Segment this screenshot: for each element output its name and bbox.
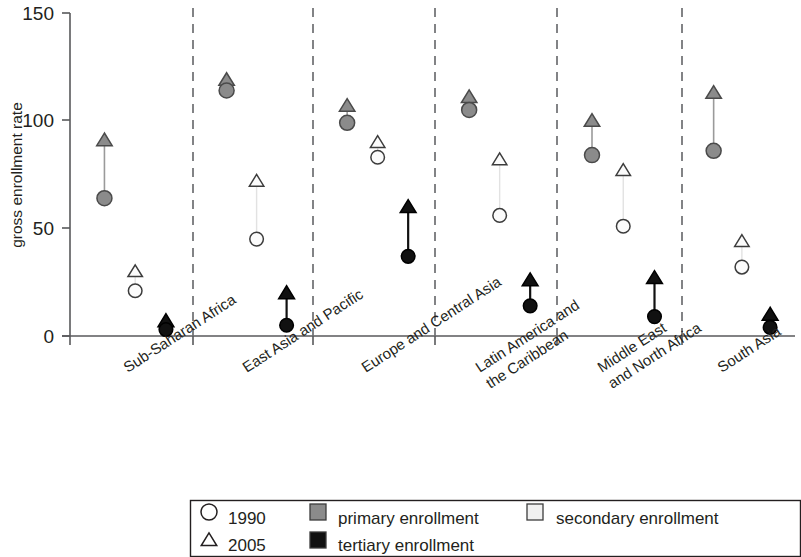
datapoint-tertiary-5 — [647, 271, 663, 324]
marker-1990-secondary-5 — [616, 219, 630, 233]
datapoint-tertiary-2 — [279, 286, 295, 332]
marker-2005-tertiary-2 — [279, 286, 295, 299]
gross-enrollment-rate-chart: 150 100 50 0 gross enrollment rate Sub-S… — [0, 0, 801, 557]
chart-canvas: 150 100 50 0 gross enrollment rate Sub-S… — [0, 0, 801, 557]
datapoint-secondary-4 — [492, 153, 506, 222]
marker-2005-secondary-1 — [128, 265, 142, 277]
marker-2005-secondary-2 — [249, 174, 263, 186]
marker-2005-primary-1 — [97, 133, 112, 146]
datapoint-primary-1 — [97, 133, 112, 206]
datapoint-primary-3 — [339, 99, 354, 131]
datapoint-primary-6 — [706, 86, 721, 159]
marker-1990-primary-1 — [97, 191, 112, 206]
data-markers-layer — [97, 73, 778, 337]
y-axis-title: gross enrollment rate — [8, 102, 25, 248]
marker-2005-primary-3 — [339, 99, 354, 112]
y-tick-label-150: 150 — [22, 3, 54, 24]
x-axis-label-2: East Asia and Pacific — [239, 285, 366, 376]
marker-1990-secondary-2 — [250, 232, 264, 246]
marker-1990-secondary-1 — [128, 284, 142, 298]
legend-secondary-label: secondary enrollment — [556, 509, 719, 528]
x-axis-category-labels: Sub-Saharan AfricaEast Asia and PacificE… — [120, 272, 784, 391]
marker-2005-primary-5 — [584, 114, 599, 127]
x-axis-label-1: Sub-Saharan Africa — [120, 290, 239, 375]
marker-2005-tertiary-6 — [762, 307, 778, 320]
marker-1990-tertiary-4 — [523, 299, 537, 313]
x-axis-label-6: South Asia — [714, 322, 784, 376]
datapoint-secondary-1 — [128, 265, 142, 298]
legend-primary-label: primary enrollment — [338, 509, 479, 528]
marker-1990-primary-2 — [219, 83, 234, 98]
legend-2005-label: 2005 — [228, 536, 266, 555]
datapoint-primary-2 — [219, 73, 234, 98]
marker-2005-tertiary-4 — [522, 273, 538, 286]
datapoint-tertiary-3 — [400, 200, 416, 264]
legend-1990-marker — [201, 504, 217, 520]
marker-1990-primary-6 — [706, 143, 721, 158]
marker-1990-primary-3 — [340, 115, 355, 130]
marker-2005-secondary-4 — [492, 153, 506, 165]
marker-2005-primary-4 — [461, 90, 476, 103]
marker-1990-secondary-4 — [493, 209, 507, 223]
legend-secondary-marker — [527, 504, 543, 520]
datapoint-tertiary-4 — [522, 273, 538, 313]
y-tick-label-100: 100 — [22, 110, 54, 131]
marker-2005-secondary-5 — [616, 164, 630, 176]
marker-1990-tertiary-3 — [401, 250, 415, 264]
legend-tertiary-label: tertiary enrollment — [338, 536, 474, 555]
datapoint-secondary-6 — [735, 235, 749, 274]
marker-1990-primary-4 — [462, 102, 477, 117]
datapoint-primary-4 — [461, 90, 476, 117]
marker-2005-tertiary-3 — [400, 200, 416, 213]
y-tick-label-0: 0 — [43, 326, 54, 347]
legend: 19902005primary enrollmenttertiary enrol… — [201, 504, 719, 555]
marker-2005-tertiary-5 — [647, 271, 663, 284]
marker-1990-secondary-6 — [735, 260, 749, 274]
datapoint-secondary-2 — [249, 174, 263, 245]
y-tick-label-50: 50 — [33, 218, 54, 239]
datapoint-primary-5 — [584, 114, 599, 163]
marker-1990-primary-5 — [585, 148, 600, 163]
category-separators — [193, 8, 682, 336]
marker-1990-secondary-3 — [371, 150, 385, 164]
legend-primary-marker — [310, 504, 326, 520]
marker-2005-secondary-3 — [370, 136, 384, 148]
marker-2005-secondary-6 — [735, 235, 749, 247]
datapoint-secondary-5 — [616, 164, 630, 233]
legend-1990-label: 1990 — [228, 509, 266, 528]
datapoint-secondary-3 — [370, 136, 384, 164]
legend-tertiary-marker — [310, 532, 326, 548]
marker-2005-primary-6 — [706, 86, 721, 99]
legend-2005-marker — [201, 533, 216, 546]
